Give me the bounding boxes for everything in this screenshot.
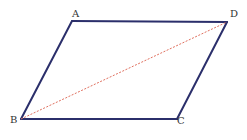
side-ad bbox=[72, 21, 227, 22]
vertex-label-c: C bbox=[177, 115, 185, 126]
side-dc bbox=[177, 22, 227, 119]
side-ba bbox=[21, 21, 72, 119]
parallelogram-diagram: A D C B bbox=[0, 0, 247, 140]
vertex-label-b: B bbox=[10, 114, 17, 125]
vertex-label-d: D bbox=[230, 8, 238, 19]
vertex-label-a: A bbox=[71, 8, 80, 19]
diagonal-bd bbox=[21, 22, 227, 119]
